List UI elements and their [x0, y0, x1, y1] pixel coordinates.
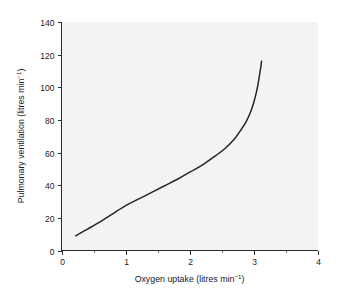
y-tick-label: 40 [45, 181, 55, 191]
x-axis-title: Oxygen uptake (litres min−1) [135, 273, 245, 284]
y-tick-label: 140 [40, 18, 54, 28]
y-tick-label: 0 [50, 247, 55, 257]
chart-canvas: 020406080100120140 01234 Oxygen uptake (… [0, 0, 343, 292]
x-tick-label: 2 [188, 257, 193, 267]
x-tick-label: 0 [60, 257, 65, 267]
y-tick-label: 80 [45, 116, 55, 126]
y-tick-label: 20 [45, 214, 55, 224]
y-tick-label: 60 [45, 149, 55, 159]
x-tick-label: 4 [316, 257, 321, 267]
chart-figure: 020406080100120140 01234 Oxygen uptake (… [0, 0, 343, 292]
x-tick-label: 1 [124, 257, 129, 267]
x-tick-label: 3 [252, 257, 257, 267]
y-axis-title: Pulmonary ventilation (litres min−1) [15, 69, 26, 204]
plot-area-background [61, 22, 318, 250]
y-tick-label: 120 [40, 51, 54, 61]
y-tick-label: 100 [40, 83, 54, 93]
